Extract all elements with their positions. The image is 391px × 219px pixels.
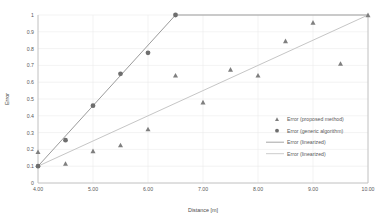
x-tick-label: 8.00	[253, 186, 263, 192]
y-axis-tick-labels: 00.10.20.30.40.50.60.70.80.91	[27, 12, 34, 186]
x-tick-label: 5.00	[88, 186, 98, 192]
y-tick-label: 0.3	[27, 130, 34, 136]
y-tick-label: 0.4	[27, 113, 34, 119]
y-tick-label: 0.1	[27, 163, 34, 169]
y-tick-label: 0.5	[27, 96, 34, 102]
legend-label: Error (linearized)	[287, 151, 326, 157]
grid-lines	[38, 15, 368, 183]
y-axis-title: Error	[4, 93, 10, 105]
x-tick-label: 7.00	[198, 186, 208, 192]
y-tick-label: 0.7	[27, 62, 34, 68]
x-axis-tick-labels: 4.005.006.007.008.009.0010.00	[33, 186, 375, 192]
x-axis-title: Distance [m]	[188, 207, 218, 213]
legend-label: Error (proposed method)	[287, 116, 344, 122]
legend-marker-circle	[275, 129, 279, 133]
legend-label: Error (linearized)	[287, 139, 326, 145]
y-tick-label: 0	[31, 180, 34, 186]
chart-container: 4.005.006.007.008.009.0010.00 00.10.20.3…	[0, 0, 391, 219]
y-tick-label: 0.2	[27, 146, 34, 152]
y-tick-label: 0.9	[27, 29, 34, 35]
legend-marker-triangle	[275, 117, 279, 121]
legend-label: Error (generic algorithm)	[287, 128, 343, 134]
legend: Error (proposed method)Error (generic al…	[266, 116, 344, 157]
x-tick-label: 10.00	[362, 186, 375, 192]
x-tick-label: 6.00	[143, 186, 153, 192]
y-tick-label: 0.8	[27, 46, 34, 52]
x-tick-label: 9.00	[308, 186, 318, 192]
y-tick-label: 1	[31, 12, 34, 18]
y-tick-label: 0.6	[27, 79, 34, 85]
chart-canvas: 4.005.006.007.008.009.0010.00 00.10.20.3…	[0, 0, 391, 219]
x-tick-label: 4.00	[33, 186, 43, 192]
